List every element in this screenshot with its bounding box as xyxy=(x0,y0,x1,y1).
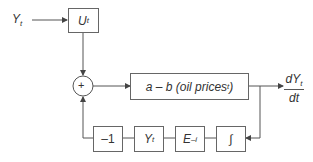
block-integral: ∫ xyxy=(216,126,246,152)
input-label: Yt xyxy=(12,12,22,28)
sum-label: + xyxy=(78,79,84,91)
block-u: Ut xyxy=(68,8,99,33)
output-derivative: dYt dt xyxy=(284,72,304,105)
block-main: a – b (oil pricest) xyxy=(130,73,249,100)
block-y: Yt xyxy=(134,126,164,152)
block-neg-one: –1 xyxy=(93,126,123,152)
block-e: E–i xyxy=(175,126,205,152)
